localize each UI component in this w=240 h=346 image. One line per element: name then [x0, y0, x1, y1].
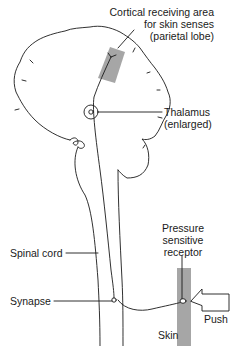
afferent-fiber: [118, 300, 182, 310]
thalamus-label: Thalamus (enlarged): [164, 106, 212, 130]
pressure-label-line1: Pressure: [158, 222, 208, 234]
brain-fold-marks: [15, 48, 162, 148]
spinal-cord-label: Spinal cord: [10, 247, 63, 259]
thalamus-circle: [84, 105, 98, 119]
thalamus-label-line1: Thalamus: [164, 106, 212, 118]
thalamus-synapse-icon: [89, 110, 93, 114]
cortical-label-line1: Cortical receiving area: [110, 6, 214, 18]
pressure-label-line3: receptor: [158, 246, 208, 258]
cortical-label-line2: for skin senses: [110, 18, 214, 30]
push-label: Push: [204, 313, 228, 325]
cortical-label-line3: (parietal lobe): [110, 30, 214, 42]
skin-label: Skin: [158, 329, 178, 341]
pressure-receptor-label: Pressure sensitive receptor: [158, 222, 208, 258]
cortical-area-label: Cortical receiving area for skin senses …: [110, 6, 214, 42]
pressure-label-line2: sensitive: [158, 234, 208, 246]
brain-outline: [14, 26, 170, 178]
synapse-circle: [112, 298, 116, 302]
brainstem-left-edge: [75, 147, 100, 346]
brainstem-curl: [70, 138, 84, 149]
receptor-ending-icon: [180, 299, 186, 304]
push-arrow-icon: [191, 289, 229, 311]
synapse-label: Synapse: [10, 295, 51, 307]
brainstem-right-edge: [118, 170, 123, 346]
skin-region: [177, 268, 191, 346]
thalamus-label-line2: (enlarged): [164, 118, 212, 130]
